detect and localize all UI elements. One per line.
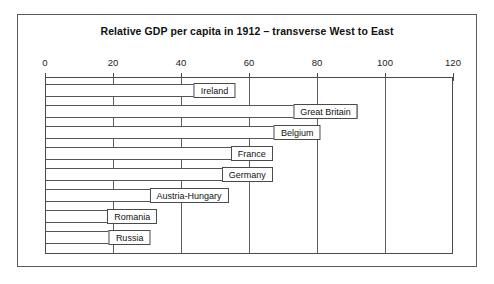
x-tick-label: 0 [42, 57, 47, 68]
x-tick-label: 60 [244, 57, 255, 68]
x-tick-label: 100 [377, 57, 393, 68]
gridline [385, 78, 386, 254]
plot-area: IrelandGreat BritainBelgiumFranceGermany… [45, 78, 453, 254]
bar-label: France [231, 146, 273, 161]
x-tick-label: 20 [108, 57, 119, 68]
x-tick-label: 40 [176, 57, 187, 68]
x-tick-label: 120 [445, 57, 461, 68]
bar-label: Great Britain [293, 104, 358, 119]
x-tick-label: 80 [312, 57, 323, 68]
bar-label: Russia [109, 230, 151, 245]
chart-title: Relative GDP per capita in 1912 – transv… [18, 25, 476, 37]
bar-label: Belgium [274, 125, 321, 140]
x-tick [453, 73, 454, 81]
bar-label: Austria-Hungary [150, 188, 229, 203]
bar-label: Germany [222, 167, 273, 182]
bar-label: Ireland [194, 83, 236, 98]
chart-figure: Relative GDP per capita in 1912 – transv… [17, 14, 477, 267]
bar-label: Romania [107, 209, 157, 224]
